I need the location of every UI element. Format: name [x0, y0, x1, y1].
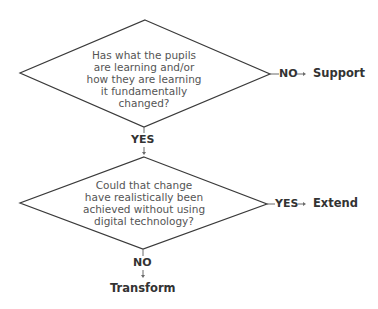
question-line: Has what the pupils: [84, 49, 204, 61]
question-line: how they are learning: [84, 73, 204, 85]
decision-2-question: Could that change have realistically bee…: [80, 179, 208, 227]
flowchart-canvas: [0, 0, 378, 309]
decision-2-no-label: NO: [133, 257, 152, 269]
arrow-right-icon: [303, 72, 306, 76]
arrow-right-icon: [303, 202, 306, 206]
outcome-support: Support: [313, 67, 365, 80]
arrow-down-icon: [142, 152, 146, 155]
question-line: are learning and/or: [84, 61, 204, 73]
decision-2-yes-label: YES: [275, 198, 298, 210]
question-line: Could that change: [80, 179, 208, 191]
question-line: changed?: [84, 97, 204, 109]
decision-1-question: Has what the pupils are learning and/or …: [84, 49, 204, 109]
outcome-transform: Transform: [110, 282, 176, 295]
arrow-down-icon: [141, 275, 145, 278]
decision-1-no-label: NO: [279, 68, 298, 80]
outcome-extend: Extend: [313, 197, 358, 210]
question-line: it fundamentally: [84, 85, 204, 97]
question-line: achieved without using: [80, 203, 208, 215]
question-line: have realistically been: [80, 191, 208, 203]
question-line: digital technology?: [80, 215, 208, 227]
decision-1-yes-label: YES: [131, 134, 154, 146]
